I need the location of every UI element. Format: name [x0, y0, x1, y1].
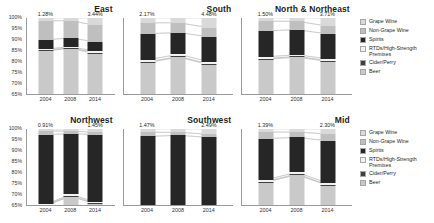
bar-segment: [259, 182, 274, 183]
bar-segment: [39, 50, 54, 51]
bar-segment: [259, 59, 274, 60]
x-axis-tick: 2008: [172, 207, 184, 213]
legend-item[interactable]: Non-Grape Wine: [360, 138, 434, 145]
bar-segment: [63, 47, 78, 48]
bar-segment: [171, 57, 186, 94]
bar-segment: [39, 21, 54, 40]
bar-segment: [289, 30, 304, 55]
bar-segment: [289, 55, 304, 57]
bar-segment: [63, 196, 78, 205]
legend-top: Grape WineNon-Grape WineSpiritsRTDs/High…: [356, 0, 434, 111]
y-axis-tick: 80%: [12, 170, 22, 175]
x-axis-tick: 2008: [290, 96, 302, 102]
small-multiples-chart-sheet: East100%95%90%85%80%75%70%65%1.28%3.44%2…: [0, 0, 434, 223]
bar-segment: [289, 21, 304, 29]
x-axis-tick: 2014: [321, 96, 333, 102]
bar-segment: [320, 18, 335, 26]
legend-item[interactable]: Beer: [360, 179, 434, 186]
bar-segment: [320, 34, 335, 59]
y-axis-labels: 100%95%90%85%80%75%70%65%: [0, 18, 24, 95]
stacked-bar: [39, 18, 54, 94]
panel-title: North & Northeast: [275, 4, 350, 14]
bar-segment: [88, 42, 103, 52]
x-axis-tick: 2014: [89, 207, 101, 213]
legend-item[interactable]: Grape Wine: [360, 129, 434, 136]
chart-panel: Mid1.39%2.30%200420082014: [237, 111, 356, 222]
y-axis-tick: 65%: [12, 203, 22, 208]
bar-segment: [140, 136, 155, 205]
bar-segment: [320, 185, 335, 205]
y-axis-tick: 80%: [12, 59, 22, 64]
bar-segment: [289, 132, 304, 137]
legend-swatch-icon: [360, 130, 366, 136]
x-axis-tick: 2008: [290, 207, 302, 213]
legend-label: Cider/Perry: [369, 59, 396, 65]
y-axis-tick: 85%: [12, 48, 22, 53]
x-axis-tick: 2004: [141, 96, 153, 102]
legend-item[interactable]: RTDs/High-Strength Premixes: [360, 156, 434, 168]
bar-segment: [289, 175, 304, 205]
bar-segment: [202, 137, 217, 205]
plot-area: [241, 129, 352, 206]
chart-panel: East100%95%90%85%80%75%70%65%1.28%3.44%2…: [0, 0, 119, 111]
bar-value-label: 4.48%: [201, 11, 216, 17]
legend-item[interactable]: Beer: [360, 68, 434, 75]
bar-segment: [259, 132, 274, 139]
x-axis-tick: 2008: [64, 207, 76, 213]
bar-segment: [320, 185, 335, 186]
bar-segment: [320, 61, 335, 62]
bar-segment: [171, 33, 186, 55]
bar-segment: [63, 131, 78, 134]
bar-segment: [63, 38, 78, 47]
bar-segment: [140, 23, 155, 34]
legend-item[interactable]: RTDs/High-Strength Premixes: [360, 45, 434, 57]
legend-swatch-icon: [360, 46, 366, 52]
stacked-bar: [88, 18, 103, 94]
legend-item[interactable]: Cider/Perry: [360, 59, 434, 66]
stacked-bar: [39, 129, 54, 205]
bar-segment: [39, 51, 54, 94]
bar-segment: [63, 129, 78, 131]
legend-label: Non-Grape Wine: [369, 27, 409, 33]
bar-segment: [88, 18, 103, 25]
bar-segment: [39, 40, 54, 49]
bar-value-label: 3.44%: [87, 11, 102, 17]
stacked-bar: [289, 18, 304, 94]
bar-segment: [63, 134, 78, 195]
legend-label: Cider/Perry: [369, 170, 396, 176]
stacked-bar: [171, 129, 186, 205]
y-axis-tick: 95%: [12, 26, 22, 31]
bar-value-label: 1.39%: [258, 122, 273, 128]
legend-label: Grape Wine: [369, 129, 397, 135]
bar-segment: [88, 204, 103, 205]
bar-segment: [39, 49, 54, 50]
bar-segment: [88, 202, 103, 203]
bar-segment: [259, 59, 274, 94]
bar-value-label: 1.28%: [38, 11, 53, 17]
y-axis-tick: 75%: [12, 70, 22, 75]
bar-value-label: 1.50%: [258, 11, 273, 17]
legend-item[interactable]: Spirits: [360, 36, 434, 43]
legend-item[interactable]: Spirits: [360, 147, 434, 154]
bar-segment: [289, 129, 304, 132]
legend-item[interactable]: Grape Wine: [360, 18, 434, 25]
x-axis-labels: 200420082014: [241, 96, 352, 108]
y-axis-tick: 90%: [12, 37, 22, 42]
panel-title: Mid: [335, 115, 350, 125]
legend-label: Spirits: [369, 36, 384, 42]
bar-segment: [202, 18, 217, 28]
x-axis-labels: 200420082014: [123, 96, 234, 108]
bar-segment: [202, 28, 217, 37]
y-axis-labels: 100%95%90%85%80%75%70%65%: [0, 129, 24, 206]
bar-segment: [140, 60, 155, 62]
chart-panel: Southwest1.47%2.49%200420082014: [119, 111, 238, 222]
y-axis-tick: 90%: [12, 148, 22, 153]
bar-segment: [63, 196, 78, 197]
chart-row-top: East100%95%90%85%80%75%70%65%1.28%3.44%2…: [0, 0, 434, 111]
legend-item[interactable]: Non-Grape Wine: [360, 27, 434, 34]
chart-panel: South2.17%4.48%200420082014: [119, 0, 238, 111]
legend-item[interactable]: Cider/Perry: [360, 170, 434, 177]
stacked-bar: [140, 18, 155, 94]
x-axis-tick: 2014: [321, 207, 333, 213]
bar-segment: [63, 194, 78, 195]
